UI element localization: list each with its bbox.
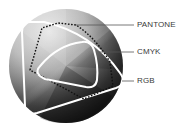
pantone-label: PANTONE — [137, 21, 176, 29]
rgb-label: RGB — [137, 77, 155, 85]
gamut-sphere — [9, 9, 123, 123]
cmyk-label: CMYK — [137, 48, 161, 56]
